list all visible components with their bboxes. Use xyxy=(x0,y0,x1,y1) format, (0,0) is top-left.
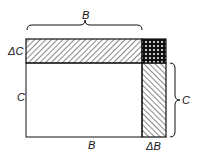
label-delta-c: ΔC xyxy=(7,45,23,57)
label-top-b: B xyxy=(82,9,89,21)
base-area xyxy=(26,63,142,137)
area-diagram: B ΔC C C B ΔB xyxy=(0,0,201,156)
right-brace xyxy=(170,63,180,137)
label-left-c: C xyxy=(17,91,25,103)
label-right-c: C xyxy=(182,94,190,106)
top-brace xyxy=(27,20,142,30)
delta-c-strip xyxy=(26,39,142,63)
corner-square xyxy=(142,39,166,63)
label-bottom-b: B xyxy=(88,139,95,151)
delta-b-strip xyxy=(142,63,166,137)
label-delta-b: ΔB xyxy=(145,140,161,152)
